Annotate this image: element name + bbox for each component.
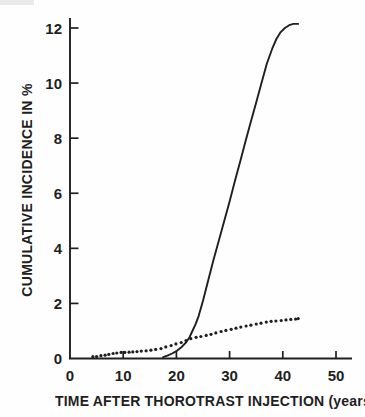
data-dot bbox=[112, 352, 115, 355]
data-dot bbox=[220, 330, 223, 333]
data-dot bbox=[297, 317, 300, 320]
data-dot bbox=[195, 336, 198, 339]
x-axis-title: TIME AFTER THOROTRAST INJECTION (years) bbox=[55, 393, 365, 409]
data-dot bbox=[284, 318, 287, 321]
data-dot bbox=[280, 319, 283, 322]
y-tick-label: 10 bbox=[45, 75, 62, 92]
x-tick-label: 10 bbox=[115, 367, 132, 384]
data-dot bbox=[131, 350, 134, 353]
data-dot bbox=[224, 329, 227, 332]
data-dot bbox=[99, 354, 102, 357]
x-tick-label: 30 bbox=[221, 367, 238, 384]
data-dot bbox=[265, 321, 268, 324]
x-tick-label: 20 bbox=[168, 367, 185, 384]
data-dot bbox=[120, 351, 123, 354]
data-dot bbox=[189, 337, 192, 340]
solid-curve bbox=[163, 24, 298, 357]
y-axis-title: CUMULATIVE INCIDENCE IN % bbox=[19, 83, 35, 296]
data-dot bbox=[259, 322, 262, 325]
data-dot bbox=[230, 328, 233, 331]
data-dot bbox=[174, 342, 177, 345]
data-dot bbox=[270, 320, 273, 323]
y-tick-label: 6 bbox=[54, 185, 62, 202]
data-dot bbox=[145, 349, 148, 352]
data-dot bbox=[249, 324, 252, 327]
y-tick-label: 0 bbox=[54, 350, 62, 367]
data-dot bbox=[184, 339, 187, 342]
x-tick-label: 0 bbox=[66, 367, 74, 384]
y-tick-label: 12 bbox=[45, 20, 62, 37]
data-dot bbox=[234, 327, 237, 330]
data-dot bbox=[104, 354, 107, 357]
data-dot bbox=[154, 348, 157, 351]
y-tick-label: 8 bbox=[54, 130, 62, 147]
data-dot bbox=[209, 333, 212, 336]
y-tick-label: 4 bbox=[54, 240, 63, 257]
data-dot bbox=[180, 341, 183, 344]
data-dot bbox=[255, 323, 258, 326]
data-dot bbox=[199, 335, 202, 338]
data-dot bbox=[274, 319, 277, 322]
data-dot bbox=[289, 318, 292, 321]
data-dot bbox=[159, 347, 162, 350]
data-dot bbox=[135, 350, 138, 353]
figure-container: 02468101201020304050 CUMULATIVE INCIDENC… bbox=[0, 0, 365, 417]
data-dot bbox=[205, 334, 208, 337]
chart-svg: 02468101201020304050 bbox=[0, 0, 365, 417]
data-dot bbox=[214, 331, 217, 334]
data-dot bbox=[107, 353, 110, 356]
data-dot bbox=[123, 351, 126, 354]
data-dot bbox=[140, 350, 143, 353]
data-dot bbox=[128, 351, 131, 354]
data-dot bbox=[91, 355, 94, 358]
data-dot bbox=[115, 351, 118, 354]
data-dot bbox=[170, 344, 173, 347]
data-dot bbox=[95, 355, 98, 358]
data-dot bbox=[164, 345, 167, 348]
x-tick-label: 40 bbox=[274, 367, 291, 384]
data-dot bbox=[245, 324, 248, 327]
x-tick-label: 50 bbox=[328, 367, 345, 384]
y-tick-label: 2 bbox=[54, 295, 62, 312]
data-dot bbox=[149, 349, 152, 352]
data-dot bbox=[239, 326, 242, 329]
